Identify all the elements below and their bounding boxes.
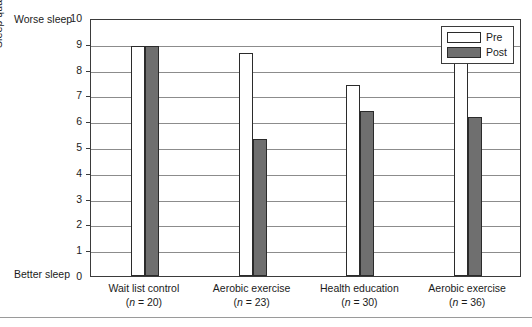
bar-post-group-4 bbox=[468, 117, 482, 276]
worse-sleep-annotation: Worse sleep bbox=[14, 13, 72, 25]
legend-label-post: Post bbox=[486, 47, 507, 58]
category-name: Aerobic exercise bbox=[213, 282, 291, 294]
legend-swatch-pre-icon bbox=[447, 32, 481, 43]
legend-item-pre: Pre bbox=[447, 31, 507, 44]
y-axis-tick-label: 9 bbox=[66, 38, 82, 50]
bar-pre-group-1 bbox=[131, 46, 145, 276]
y-axis-tick-label: 1 bbox=[66, 244, 82, 256]
category-sample-size: (n = 23) bbox=[198, 296, 306, 310]
category-sample-size: (n = 20) bbox=[90, 296, 198, 310]
bar-post-group-3 bbox=[360, 111, 374, 276]
plot-area: Pre Post bbox=[90, 19, 521, 277]
chart-legend: Pre Post bbox=[441, 26, 514, 64]
x-axis-category-label-2: Aerobic exercise(n = 23) bbox=[198, 282, 306, 309]
legend-item-post: Post bbox=[447, 46, 507, 59]
y-axis-tick-label: 4 bbox=[66, 167, 82, 179]
bar-pre-group-2 bbox=[239, 53, 253, 276]
better-sleep-annotation: Better sleep bbox=[14, 268, 70, 280]
y-axis-tick-label: 3 bbox=[66, 193, 82, 205]
y-axis-tick-label: 2 bbox=[66, 218, 82, 230]
legend-label-pre: Pre bbox=[486, 32, 502, 43]
category-name: Wait list control bbox=[108, 282, 179, 294]
y-axis-tick-label: 8 bbox=[66, 64, 82, 76]
category-sample-size: (n = 30) bbox=[306, 296, 414, 310]
y-axis-tick-label: 6 bbox=[66, 115, 82, 127]
footer-divider bbox=[0, 317, 532, 318]
category-name: Aerobic exercise bbox=[428, 282, 506, 294]
x-axis-category-label-1: Wait list control(n = 20) bbox=[90, 282, 198, 309]
y-axis-tick-label: 7 bbox=[66, 89, 82, 101]
legend-swatch-post-icon bbox=[447, 47, 481, 58]
y-axis-tick-label: 10 bbox=[66, 12, 82, 24]
x-axis-category-label-3: Health education(n = 30) bbox=[306, 282, 414, 309]
bar-post-group-2 bbox=[253, 139, 267, 276]
category-sample-size: (n = 36) bbox=[413, 296, 521, 310]
sleep-quality-bar-chart: Sleep quality (Pittsburg Sleep Quality I… bbox=[0, 0, 532, 327]
y-axis-tick-label: 0 bbox=[66, 270, 82, 282]
y-axis-tick-label: 5 bbox=[66, 141, 82, 153]
x-axis-category-label-4: Aerobic exercise(n = 36) bbox=[413, 282, 521, 309]
bar-pre-group-3 bbox=[346, 85, 360, 276]
category-name: Health education bbox=[320, 282, 399, 294]
y-axis-title: Sleep quality (Pittsburg Sleep Quality I… bbox=[0, 0, 4, 48]
bar-pre-group-4 bbox=[454, 62, 468, 276]
bar-post-group-1 bbox=[145, 46, 159, 276]
